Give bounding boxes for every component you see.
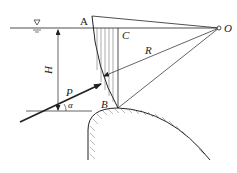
pressure-body-hatch	[97, 28, 113, 102]
label-r: R	[144, 44, 152, 56]
sill-crest	[88, 108, 210, 160]
label-b: B	[101, 98, 108, 110]
pivot-point	[217, 26, 221, 30]
label-alpha: α	[68, 100, 73, 110]
water-surface-symbol	[33, 20, 41, 32]
label-o: O	[224, 22, 232, 34]
angle-arc	[64, 104, 66, 111]
label-a: A	[80, 15, 88, 27]
label-p: P	[65, 86, 73, 98]
force-arrow	[20, 84, 101, 122]
label-c: C	[122, 29, 130, 41]
gate-diagram: A C O R P B α H	[0, 0, 237, 173]
gate-bottom-arm	[118, 28, 219, 108]
gate-top-arm	[92, 16, 219, 28]
label-h: H	[42, 65, 54, 75]
sill-hatch	[90, 108, 204, 159]
